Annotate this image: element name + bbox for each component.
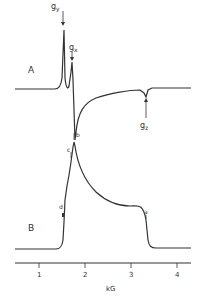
gy-label: gy <box>51 2 60 13</box>
marker-d-label: d <box>59 203 63 210</box>
epr-spectra-figure: gy gx gz A b c d a B 1 2 3 4 kG <box>0 0 201 300</box>
marker-d-tick <box>62 213 64 217</box>
gx-label: gx <box>69 43 78 53</box>
tick-label-3: 3 <box>129 271 133 279</box>
spectrum-a-trace <box>15 30 191 140</box>
gx-arrowhead-icon <box>70 57 74 61</box>
tick-label-4: 4 <box>175 271 180 279</box>
marker-c-label: c <box>67 146 70 153</box>
gy-arrowhead-icon <box>61 22 65 26</box>
gz-arrowhead-icon <box>144 98 148 102</box>
tick-label-2: 2 <box>83 271 87 279</box>
spectrum-b-label: B <box>28 223 34 233</box>
marker-a-label: a <box>144 208 148 215</box>
x-axis-label: kG <box>106 285 115 293</box>
marker-b-label: b <box>76 131 80 138</box>
gz-label: gz <box>140 121 148 131</box>
tick-label-1: 1 <box>37 271 41 279</box>
spectrum-a-label: A <box>28 65 35 75</box>
spectrum-b-trace <box>15 142 191 249</box>
